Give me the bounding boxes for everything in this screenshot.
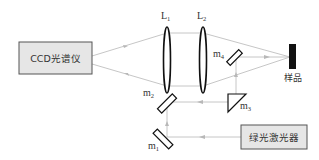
ccd-label: CCD光谱仪 bbox=[30, 53, 81, 64]
optical-setup-diagram: CCD光谱仪 L1 L2 m4 m2 m3 m1 样品 绿光激光器 bbox=[0, 0, 319, 160]
green-laser: 绿光激光器 bbox=[241, 125, 307, 149]
ccd-spectrometer: CCD光谱仪 bbox=[19, 42, 92, 74]
mirror-m4: m4 bbox=[213, 48, 242, 65]
arrow-icon bbox=[165, 121, 169, 126]
lens-l2: L2 bbox=[197, 10, 207, 93]
lens-l2-shape bbox=[200, 27, 207, 93]
mirror-m2: m2 bbox=[143, 87, 177, 113]
arrow-icon bbox=[264, 55, 270, 59]
mirror-m1: m1 bbox=[148, 129, 173, 152]
mirror-m4-shape bbox=[227, 50, 243, 66]
sample: 样品 bbox=[284, 44, 302, 83]
sample-label: 样品 bbox=[284, 72, 302, 83]
beam-paths bbox=[92, 33, 290, 139]
lens-l2-label: L2 bbox=[197, 10, 206, 22]
sample-block bbox=[289, 44, 296, 69]
arrow-icon bbox=[197, 100, 203, 104]
mirror-m3-label: m3 bbox=[240, 100, 251, 112]
lens-l1-shape bbox=[164, 27, 171, 93]
mirror-m4-label: m4 bbox=[213, 48, 225, 60]
ray-l2-sample-lower bbox=[203, 57, 290, 86]
mirror-m1-label: m1 bbox=[148, 140, 159, 152]
arrow-icon bbox=[124, 73, 129, 76]
green-laser-label: 绿光激光器 bbox=[249, 132, 299, 143]
mirror-m3: m3 bbox=[228, 94, 251, 112]
arrow-icon bbox=[199, 135, 205, 139]
lens-l1-label: L1 bbox=[161, 10, 170, 22]
ray-ccd-upper bbox=[92, 33, 167, 56]
mirror-m2-label: m2 bbox=[143, 87, 154, 99]
ray-ccd-lower bbox=[92, 64, 167, 86]
lens-l1: L1 bbox=[161, 10, 171, 93]
